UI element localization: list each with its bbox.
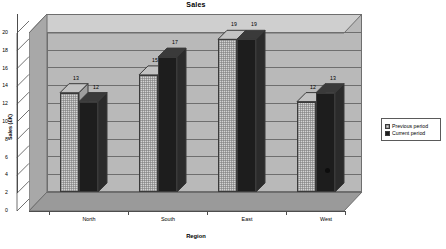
chart-legend: Previous period Current period (381, 118, 441, 141)
x-axis-labels: North South East West (29, 215, 362, 227)
x-axis-title: Region (0, 233, 446, 239)
legend-swatch-previous-icon (385, 124, 390, 129)
data-label-west-current: 13 (320, 75, 346, 81)
y-axis: 20 18 16 14 12 10 8 6 4 2 0 (0, 14, 30, 214)
x-axis-line (29, 211, 345, 212)
x-tick-mark (345, 211, 346, 215)
dot-artifact (325, 168, 330, 173)
x-label-south: South (148, 216, 188, 222)
x-label-north: North (69, 216, 109, 222)
data-label-north-current: 12 (83, 84, 109, 90)
bar-front-face (79, 102, 98, 192)
chart-title-text: Sales (186, 1, 205, 8)
bar-east-current[interactable] (237, 14, 267, 211)
data-label-east-current: 19 (241, 21, 267, 27)
x-label-west: West (306, 216, 346, 222)
x-tick-mark (128, 211, 129, 215)
bar-front-face (297, 102, 316, 192)
legend-swatch-current-icon (385, 131, 390, 136)
bar-front-face (60, 93, 79, 192)
legend-item-current-period[interactable]: Current period (385, 130, 437, 136)
x-axis-title-text: Region (186, 233, 206, 239)
x-tick-mark (49, 211, 50, 215)
data-label-south-current: 17 (162, 39, 188, 45)
legend-label-previous: Previous period (392, 123, 428, 129)
bar-front-face (139, 75, 158, 192)
bar-front-face (158, 57, 177, 192)
chart-title: Sales (0, 1, 446, 8)
x-label-east: East (227, 216, 267, 222)
legend-label-current: Current period (392, 130, 425, 136)
x-tick-mark (207, 211, 208, 215)
bar-chart: Sales (0, 0, 446, 249)
bars-layer: 13 12 15 17 (29, 14, 362, 211)
y-axis-title: Sales (£K) (7, 114, 13, 140)
bar-front-face (316, 93, 335, 192)
bar-front-face (218, 39, 237, 192)
bar-north-current[interactable] (79, 14, 109, 211)
x-tick-mark (286, 211, 287, 215)
bar-front-face (237, 39, 256, 192)
bar-west-current[interactable] (316, 14, 346, 211)
legend-item-previous-period[interactable]: Previous period (385, 123, 437, 129)
